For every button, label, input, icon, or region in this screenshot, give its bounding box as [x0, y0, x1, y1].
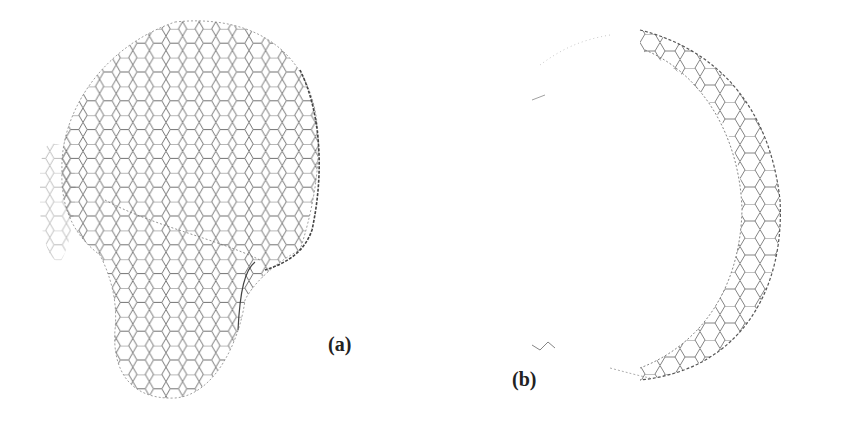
panel-b-structure — [532, 25, 790, 385]
panel-a-structure — [40, 10, 340, 410]
panel-b-label: (b) — [512, 368, 536, 391]
figure-canvas — [0, 0, 862, 422]
panel-a-label: (a) — [328, 333, 351, 356]
